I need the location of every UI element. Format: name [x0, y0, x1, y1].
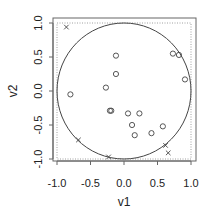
y-tick-label: 0.5 [32, 49, 44, 64]
circle-marker [149, 131, 154, 136]
circle-marker [103, 85, 108, 90]
y-tick-label: 1.0 [32, 15, 44, 30]
circle-marker [68, 92, 73, 97]
y-axis: -1.0-0.50.00.51.0 [32, 15, 53, 168]
cross-marker [166, 151, 171, 156]
x-tick-label: -0.5 [81, 177, 100, 189]
circle-marker [170, 51, 175, 56]
data-points [64, 25, 187, 159]
circle-marker [132, 133, 137, 138]
circle-marker [125, 111, 130, 116]
plot-box [53, 18, 196, 161]
x-tick-label: -1.0 [48, 177, 67, 189]
circle-marker [182, 77, 187, 82]
x-tick-label: 0.5 [150, 177, 165, 189]
y-tick-label: -0.5 [32, 116, 44, 135]
x-tick-label: 1.0 [183, 177, 198, 189]
y-tick-label: 0.0 [32, 83, 44, 98]
scatter-chart: -1.0-0.50.00.51.0 -1.0-0.50.00.51.0 v1 v… [0, 0, 212, 213]
x-tick-label: 0.0 [116, 177, 131, 189]
circle-marker [113, 71, 118, 76]
y-tick-label: -1.0 [32, 150, 44, 169]
circle-marker [113, 53, 118, 58]
x-axis: -1.0-0.50.00.51.0 [48, 161, 199, 189]
x-axis-label: v1 [118, 195, 131, 209]
circle-marker [160, 124, 165, 129]
circle-marker [129, 122, 134, 127]
circle-marker [137, 111, 142, 116]
cross-marker [64, 25, 69, 30]
y-axis-label: v2 [6, 84, 20, 97]
